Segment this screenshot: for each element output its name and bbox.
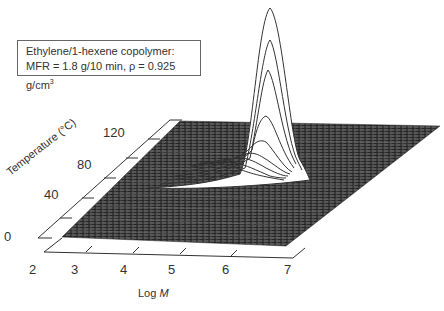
y-tick-0: 0 [4, 229, 11, 244]
annotation-box: Ethylene/1-hexene copolymer: MFR = 1.8 g… [17, 40, 201, 76]
x-tick-4: 4 [120, 262, 127, 277]
x-tick-2: 2 [29, 262, 36, 277]
x-axis-title: Log M [138, 287, 169, 299]
y-tick-40: 40 [44, 187, 58, 202]
y-tick-80: 80 [77, 157, 91, 172]
annotation-line-1: Ethylene/1-hexene copolymer: [26, 44, 200, 59]
x-tick-6: 6 [222, 262, 229, 277]
annotation-line-2: MFR = 1.8 g/10 min, ρ = 0.925 g/cm3 [26, 59, 200, 93]
y-tick-120: 120 [103, 125, 125, 140]
x-tick-3: 3 [71, 262, 78, 277]
x-tick-7: 7 [284, 262, 291, 277]
x-tick-5: 5 [168, 262, 175, 277]
